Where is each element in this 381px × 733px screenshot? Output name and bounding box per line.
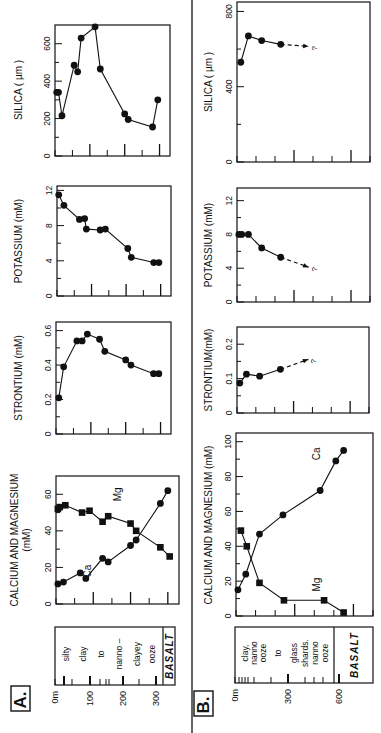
data-point <box>124 245 131 252</box>
ca-point <box>133 537 140 544</box>
lithology-word: clay <box>78 646 88 662</box>
value-tick-label: 400 <box>42 74 52 88</box>
data-point <box>238 231 245 238</box>
data-point <box>96 336 103 343</box>
data-point <box>236 380 243 387</box>
lithology-word: ooze <box>258 644 268 663</box>
chart-b-7: 020406080100CALCIUM AND MAGNESIUM (mM)Ca… <box>203 433 373 618</box>
pore-water-chemistry-figure: 0200400600SILICA ( µm )04812POTASSIUM (m… <box>0 0 381 733</box>
data-point <box>74 68 81 75</box>
data-point <box>92 23 99 30</box>
ca-point <box>99 555 106 562</box>
axis-title: STRONTIUM(mM) <box>203 329 214 412</box>
data-point <box>128 254 135 261</box>
arrow-head-icon <box>303 44 309 49</box>
value-tick-label: 800 <box>224 4 234 18</box>
ca-point <box>235 586 242 593</box>
mg-point <box>105 513 112 520</box>
lithology-column-panel_b: 0m300600clay,nannooozetoglassshards.nann… <box>194 627 373 716</box>
value-tick-label: 0 <box>224 299 234 304</box>
ca-point <box>280 512 287 519</box>
data-point <box>55 191 62 198</box>
data-point <box>81 215 88 222</box>
lithology-word: ooze <box>147 645 157 664</box>
plot-frame <box>237 327 369 413</box>
mg-point <box>243 543 250 550</box>
value-tick-label: 0.2 <box>224 338 234 350</box>
basalt-label: BASALT <box>164 633 175 679</box>
value-tick-label: 0 <box>44 293 54 298</box>
panel-label: B. <box>194 697 213 714</box>
value-tick-label: 0.4 <box>43 359 53 371</box>
mg-point <box>321 597 328 604</box>
depth-label: 0m <box>230 689 240 702</box>
lithology-word: nanno – <box>114 638 124 669</box>
depth-label: 300 <box>151 691 161 706</box>
chart-a-1: 04812POTASSIUM (mM) <box>13 185 171 298</box>
axis-title: STRONTIUM (mM) <box>13 335 24 421</box>
mg-point <box>133 528 140 535</box>
mg-point <box>157 544 164 551</box>
plot-frame <box>56 322 171 434</box>
data-point <box>55 394 62 401</box>
lithology-column-panel_a: 0m100200300siltyclaytonanno –clayeyoozeB… <box>11 627 175 711</box>
value-tick-label: 600 <box>42 36 52 50</box>
mg-point <box>62 502 69 509</box>
data-point <box>245 32 252 39</box>
data-line <box>57 27 158 127</box>
mg-point <box>238 527 245 534</box>
value-tick-label: 80 <box>223 472 233 482</box>
data-point <box>258 37 265 44</box>
ca-point <box>60 579 67 586</box>
ca-line <box>238 450 344 589</box>
value-tick-label: 20 <box>223 576 233 586</box>
ca-point <box>256 531 263 538</box>
value-tick-label: 0 <box>224 410 234 415</box>
value-tick-label: 0 <box>223 613 233 618</box>
value-tick-label: 0.1 <box>224 372 234 384</box>
mg-point <box>166 553 173 560</box>
chart-b-4: 0400800SILICA ( µm )? <box>203 2 370 164</box>
ca-point <box>242 571 249 578</box>
ca-point <box>340 447 347 454</box>
mg-point <box>256 580 263 587</box>
lithology-word: to <box>96 650 106 657</box>
chart-a-3: 0204060CALCIUM AND MAGNESIUM(mM)CaMg <box>9 474 179 607</box>
axis-title-units: (mM) <box>21 528 32 551</box>
value-tick-label: 12 <box>44 185 54 195</box>
value-tick-label: 0 <box>42 153 52 158</box>
value-tick-label: 20 <box>43 562 53 572</box>
lithology-word: silty <box>61 646 71 661</box>
lithology-word: nanno <box>310 641 320 665</box>
unknown-marker: ? <box>310 266 319 271</box>
data-point <box>245 231 252 238</box>
data-point <box>79 338 86 345</box>
axis-title: SILICA ( µm ) <box>13 60 24 120</box>
ca-line <box>58 491 168 584</box>
unknown-marker: ? <box>309 359 318 364</box>
lithology-word: clayey <box>132 641 142 666</box>
value-tick-label: 60 <box>223 506 233 516</box>
data-point <box>97 66 104 73</box>
data-point <box>149 124 156 131</box>
panel-label: A. <box>11 692 30 709</box>
value-tick-label: 8 <box>44 223 54 228</box>
chart-b-6: 00.10.2STRONTIUM(mM)? <box>203 327 369 415</box>
value-tick-label: 4 <box>224 266 234 271</box>
ca-point <box>164 487 171 494</box>
unknown-marker: ? <box>310 46 319 51</box>
data-point <box>55 89 62 96</box>
chart-a-2: 00.20.40.6STRONTIUM (mM) <box>13 322 171 436</box>
value-tick-label: 0 <box>224 159 234 164</box>
data-point <box>237 59 244 66</box>
mg-point <box>281 597 288 604</box>
data-point <box>154 96 161 103</box>
chart-a-0: 0200400600SILICA ( µm ) <box>13 23 170 158</box>
data-point <box>83 226 90 233</box>
data-point <box>71 62 78 69</box>
value-tick-label: 8 <box>224 232 234 237</box>
value-tick-label: 100 <box>223 434 233 448</box>
plot-frame <box>57 186 171 296</box>
axis-title: POTASSIUM (mM) <box>13 199 24 283</box>
data-point <box>155 370 162 377</box>
